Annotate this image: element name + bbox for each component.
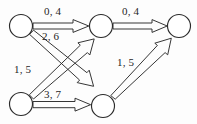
graph-node-bottom-middle[interactable] (92, 95, 115, 118)
edge-label-n4-n5: 3, 7 (44, 89, 61, 100)
flow-network-diagram: 0, 4 0, 4 2, 6 1, 5 3, 7 1, 5 (0, 0, 197, 124)
graph-node-bottom-left[interactable] (10, 93, 33, 116)
edge-label-n5-n3: 1, 5 (117, 57, 134, 68)
graph-canvas (0, 0, 197, 124)
edge-n1-n5 (30, 30, 94, 86)
edge-n5-n3 (111, 38, 172, 99)
edge-label-n1-n5: 1, 5 (14, 64, 31, 75)
graph-node-top-right[interactable] (168, 15, 191, 38)
edge-n2-n3 (113, 20, 167, 33)
graph-node-top-left[interactable] (10, 15, 33, 38)
edge-n4-n2 (29, 39, 94, 99)
edge-label-n4-n2: 2, 6 (42, 31, 59, 42)
edge-n4-n5 (33, 98, 91, 111)
graph-node-top-middle[interactable] (90, 15, 113, 38)
edge-label-n2-n3: 0, 4 (122, 6, 139, 17)
edge-label-n1-n2: 0, 4 (44, 6, 61, 17)
